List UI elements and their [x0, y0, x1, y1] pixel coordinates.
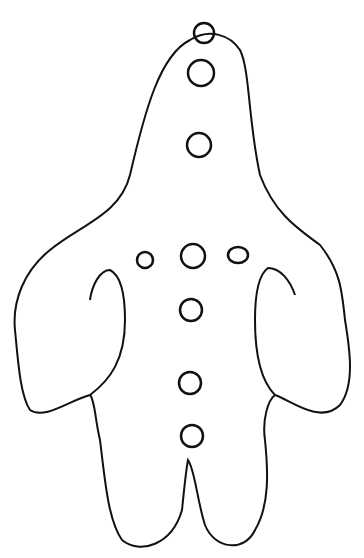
- circle-5: [181, 244, 205, 268]
- circle-8: [179, 372, 201, 394]
- circle-7: [180, 299, 202, 321]
- circle-3: [187, 133, 211, 157]
- left-arm-inner: [90, 270, 125, 395]
- circles: [137, 23, 248, 447]
- right-arm-inner: [255, 268, 295, 395]
- circle-4: [137, 252, 153, 268]
- figure-drawing: [0, 0, 364, 558]
- drawing-canvas: [0, 0, 364, 558]
- circle-2: [188, 60, 214, 86]
- circle-6: [228, 247, 248, 263]
- circle-9: [181, 425, 203, 447]
- body-outline: [15, 34, 350, 547]
